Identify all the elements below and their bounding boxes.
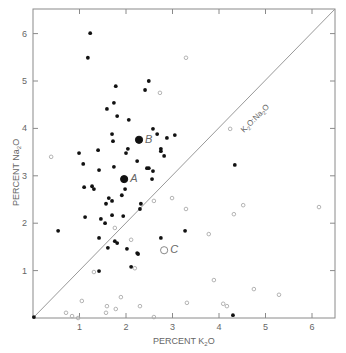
filled-point [138,207,142,211]
open-point [49,155,53,159]
filled-point [121,214,125,218]
filled-point [112,101,116,105]
filled-point [115,241,119,245]
filled-point [155,132,159,136]
filled-point [151,127,155,131]
y-tick-label: 2 [22,218,27,228]
filled-point [106,246,110,250]
open-point [228,127,232,131]
filled-point [56,229,60,233]
plot-area: 123456123456 K2O:Na2O ABC PERCENT K2O PE… [0,0,346,353]
open-point [129,238,133,242]
y-tick-label: 3 [22,171,27,181]
scatter-chart: 123456123456 K2O:Na2O ABC PERCENT K2O PE… [0,0,346,353]
labeled-points: ABC [121,133,179,255]
open-point [113,226,117,230]
x-tick-label: 6 [309,322,314,332]
ratio-line [33,9,335,318]
labeled-point-b [135,136,142,143]
open-point [64,311,68,315]
open-point [207,232,211,236]
filled-point [124,151,128,155]
x-tick-label: 5 [263,322,268,332]
open-point [119,295,123,299]
filled-point [110,132,114,136]
filled-point [129,265,133,269]
open-point [138,304,142,308]
filled-point [97,236,101,240]
filled-point [127,118,131,122]
filled-point [104,202,108,206]
y-axis-label: PERCENT Na2O [11,139,22,206]
open-point [225,304,229,308]
open-point [92,270,96,274]
filled-point [165,136,169,140]
open-point [277,293,281,297]
filled-point [111,139,115,143]
filled-point [135,159,139,163]
point-label-c: C [170,243,178,255]
filled-point [150,177,154,181]
reference-line: K2O:Na2O [33,9,335,318]
filled-point [32,315,36,319]
filled-point [125,247,129,251]
labeled-point-a [121,176,128,183]
filled-point [77,151,81,155]
filled-point [103,221,107,225]
filled-point [147,166,151,170]
filled-point [143,88,147,92]
y-tick-label: 4 [22,123,27,133]
filled-point [81,162,85,166]
open-point [241,203,245,207]
filled-point [105,107,109,111]
filled-point [99,217,103,221]
open-point [80,299,84,303]
y-tick-label: 5 [22,76,27,86]
open-point [184,207,188,211]
open-point [317,205,321,209]
open-point [221,302,225,306]
open-point [170,196,174,200]
filled-point [123,187,127,191]
filled-point [88,31,92,35]
filled-point [231,313,235,317]
filled-point [97,269,101,273]
ratio-line-label: K2O:Na2O [239,102,272,135]
filled-point [97,168,101,172]
filled-point [96,148,100,152]
filled-point [110,199,114,203]
filled-point [139,202,143,206]
filled-point [86,56,90,60]
x-tick-label: 2 [123,322,128,332]
filled-point [126,147,130,151]
filled-point [147,79,151,83]
open-point [70,314,74,318]
open-points [49,56,320,320]
filled-point [159,236,163,240]
filled-point [107,196,111,200]
filled-point [114,84,118,88]
filled-point [92,187,96,191]
open-point [152,199,156,203]
labeled-point-c [161,247,168,254]
x-tick-label: 3 [170,322,175,332]
open-point [114,307,118,311]
open-point [184,56,188,60]
filled-point [183,229,187,233]
filled-point [120,193,124,197]
filled-point [136,252,140,256]
filled-point [83,215,87,219]
filled-point [112,165,116,169]
point-label-a: A [129,172,137,184]
filled-point [115,114,119,118]
filled-point [173,133,177,137]
y-tick-label: 6 [22,29,27,39]
x-tick-label: 4 [216,322,221,332]
filled-point [110,213,114,217]
filled-point [162,154,166,158]
x-tick-label: 1 [77,322,82,332]
filled-point [159,149,163,153]
open-point [133,266,137,270]
point-label-b: B [145,133,152,145]
open-point [185,301,189,305]
